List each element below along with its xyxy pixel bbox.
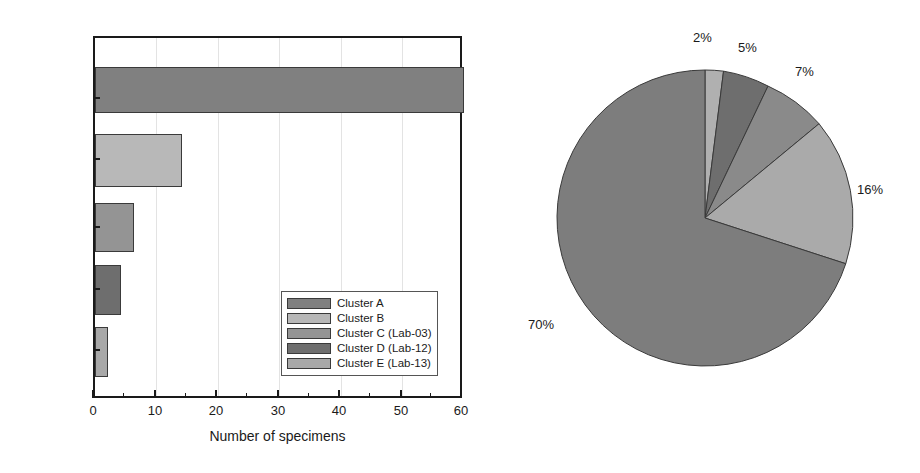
xtick-mark-minor-5 <box>123 393 124 398</box>
bar-cluster-d <box>95 265 121 315</box>
legend-swatch-cluster-c <box>287 328 331 339</box>
ytick-mark-cluster-b <box>93 158 100 160</box>
legend-item-cluster-e: Cluster E (Lab-13) <box>287 356 432 371</box>
xtick-label-50: 50 <box>381 404 421 417</box>
xtick-label-20: 20 <box>196 404 236 417</box>
bar-chart-panel: Cluster A Cluster B Cluster C Cluster D … <box>0 0 480 473</box>
xtick-label-10: 10 <box>135 404 175 417</box>
xtick-label-60: 60 <box>441 404 481 417</box>
legend-swatch-cluster-b <box>287 313 331 324</box>
legend-swatch-cluster-d <box>287 343 331 354</box>
legend-swatch-cluster-a <box>287 298 331 309</box>
xtick-mark-minor-25 <box>246 393 247 398</box>
bar-cluster-e <box>95 327 108 377</box>
xtick-mark-0 <box>92 390 94 398</box>
xtick-label-0: 0 <box>73 404 113 417</box>
legend-label-cluster-c: Cluster C (Lab-03) <box>337 328 432 340</box>
bar-chart-legend: Cluster A Cluster B Cluster C (Lab-03) C… <box>281 291 438 376</box>
pie-label-5-percent: 5% <box>738 41 757 54</box>
ytick-mark-cluster-e <box>93 349 100 351</box>
xtick-mark-10 <box>154 390 156 398</box>
legend-item-cluster-a: Cluster A <box>287 296 432 311</box>
xtick-mark-40 <box>338 390 340 398</box>
ytick-mark-cluster-a <box>93 97 100 99</box>
xtick-mark-minor-15 <box>185 393 186 398</box>
bar-cluster-c <box>95 203 134 252</box>
xtick-mark-60 <box>460 390 462 398</box>
xtick-mark-50 <box>400 390 402 398</box>
figure-container: Cluster A Cluster B Cluster C Cluster D … <box>0 0 920 473</box>
pie-chart-panel: 2% 5% 7% 16% 70% <box>480 0 920 473</box>
xtick-mark-minor-45 <box>369 393 370 398</box>
legend-label-cluster-d: Cluster D (Lab-12) <box>337 343 432 355</box>
xtick-label-30: 30 <box>258 404 298 417</box>
ytick-mark-cluster-d <box>93 288 100 290</box>
bar-cluster-a <box>95 67 464 113</box>
xtick-mark-20 <box>215 390 217 398</box>
x-axis-title: Number of specimens <box>93 428 462 444</box>
xtick-mark-minor-55 <box>430 393 431 398</box>
pie-label-7-percent: 7% <box>795 65 814 78</box>
legend-swatch-cluster-e <box>287 358 331 369</box>
xtick-label-40: 40 <box>319 404 359 417</box>
bar-cluster-b <box>95 134 182 187</box>
legend-label-cluster-a: Cluster A <box>337 298 384 310</box>
legend-label-cluster-e: Cluster E (Lab-13) <box>337 358 431 370</box>
legend-item-cluster-b: Cluster B <box>287 311 432 326</box>
legend-item-cluster-c: Cluster C (Lab-03) <box>287 326 432 341</box>
xtick-mark-minor-35 <box>308 393 309 398</box>
pie-label-70-percent: 70% <box>528 318 554 331</box>
pie-chart-graphic <box>480 0 920 473</box>
pie-label-16-percent: 16% <box>857 183 883 196</box>
legend-label-cluster-b: Cluster B <box>337 313 384 325</box>
legend-item-cluster-d: Cluster D (Lab-12) <box>287 341 432 356</box>
pie-label-2-percent: 2% <box>693 31 712 44</box>
xtick-mark-30 <box>277 390 279 398</box>
ytick-mark-cluster-c <box>93 226 100 228</box>
